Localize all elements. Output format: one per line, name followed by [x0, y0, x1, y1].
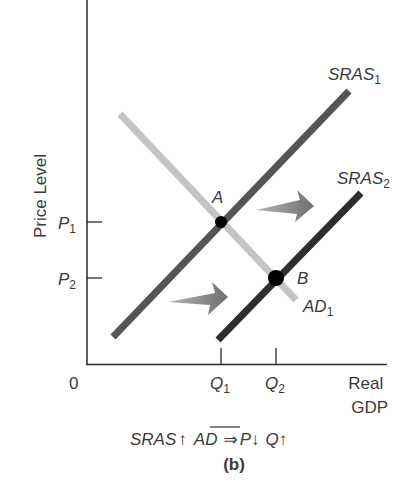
- point-b: [268, 270, 284, 286]
- shift-arrow-upper-icon: [256, 190, 314, 222]
- panel-label: (b): [223, 455, 245, 474]
- x-tick-label-q2: Q2: [265, 374, 285, 396]
- as-ad-chart: Price Level P1 P2 0 Q1 Q2 Real GDP A B S…: [0, 0, 413, 485]
- origin-label: 0: [69, 374, 78, 393]
- sras2-curve: [218, 193, 361, 340]
- x-axis-label: Real GDP: [348, 374, 388, 417]
- sras2-label: SRAS2: [337, 169, 390, 191]
- point-a-label: A: [211, 188, 223, 207]
- y-tick-label-p2: P2: [58, 270, 76, 292]
- point-b-label: B: [297, 269, 308, 288]
- caption-formula: SRAS↑AD⇒P↓Q↑: [130, 430, 287, 449]
- sras1-label: SRAS1: [328, 65, 381, 87]
- x-tick-label-q1: Q1: [210, 374, 230, 396]
- y-axis-label: Price Level: [31, 154, 50, 238]
- ad1-label: AD1: [302, 297, 334, 319]
- point-a: [215, 216, 227, 228]
- shift-arrow-lower-icon: [168, 282, 228, 315]
- y-tick-label-p1: P1: [58, 214, 76, 236]
